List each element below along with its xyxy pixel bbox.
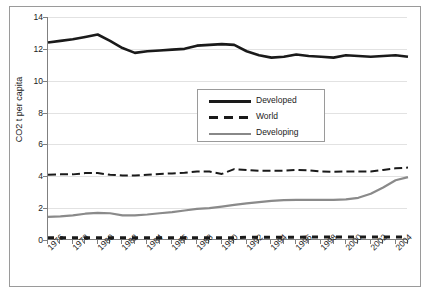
series-line-developed (48, 35, 408, 58)
legend-item-developed[interactable]: Developed (198, 93, 326, 109)
legend-label: World (256, 111, 278, 122)
legend-swatch-icon (209, 133, 251, 135)
series-line-developing (48, 177, 408, 217)
series-line-world (48, 168, 408, 176)
y-axis-tick-label: 4 (5, 172, 43, 181)
y-axis-tick-label: 8 (5, 109, 43, 118)
legend-label: Developed (256, 95, 297, 106)
chart-legend: DevelopedWorldDeveloping (197, 89, 325, 142)
y-axis-tick-label: 10 (5, 77, 43, 86)
y-axis-tick-label: 6 (5, 140, 43, 149)
legend-item-developing[interactable]: Developing (198, 125, 326, 141)
legend-swatch-icon (209, 100, 251, 103)
legend-swatch-icon (209, 116, 251, 119)
y-axis-tick-label: 0 (5, 236, 43, 245)
legend-label: Developing (256, 127, 299, 138)
y-axis-tick-label: 14 (5, 13, 43, 22)
y-axis-tick-label: 12 (5, 45, 43, 54)
y-axis-title: CO2 t per capita (15, 45, 24, 175)
legend-item-world[interactable]: World (198, 109, 326, 125)
y-axis-tick-label: 2 (5, 204, 43, 213)
chart-figure: 02468101214 CO2 t per capita 19761978198… (0, 0, 431, 296)
x-axis: 1976197819801982198419861988199019921994… (47, 240, 407, 290)
